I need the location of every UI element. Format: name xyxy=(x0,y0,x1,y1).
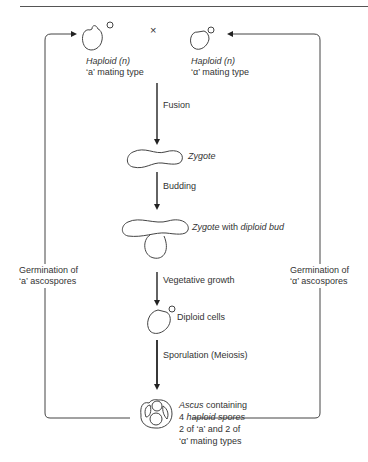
haploid-alpha-label: Haploid (n) xyxy=(191,56,235,67)
life-cycle-diagram xyxy=(0,0,368,462)
haploid-a-mating-type: ‘a’ mating type xyxy=(86,67,144,78)
haploid-alpha-mating-type: ‘α’ mating type xyxy=(191,67,249,78)
sporulation-label: Sporulation (Meiosis) xyxy=(163,350,248,361)
ascus-line3: 2 of ‘a’ and 2 of xyxy=(179,423,247,435)
haploid-alpha-cell-icon xyxy=(191,27,214,49)
zygote-with-bud-italic: Zygote xyxy=(192,222,220,232)
cross-symbol: × xyxy=(150,25,156,36)
right-germination-label: Germination of ‘α’ ascospores xyxy=(290,264,349,288)
left-germination-label: Germination of ‘a’ ascospores xyxy=(19,264,78,288)
zygote-with-bud-label: Zygote with diploid bud xyxy=(192,222,284,233)
ascus-haploid-spores: haploid spores xyxy=(187,412,246,422)
budding-label: Budding xyxy=(163,181,196,192)
zygote-with-bud-icon xyxy=(122,220,188,258)
left-germination-loop xyxy=(45,34,130,418)
ascus-icon xyxy=(141,400,172,428)
left-germination-line2: ‘a’ ascospores xyxy=(19,276,78,287)
ascus-spore-count: 4 xyxy=(179,412,187,422)
left-germination-line1: Germination of xyxy=(19,265,78,276)
diploid-cells-label: Diploid cells xyxy=(177,312,225,323)
right-germination-line2: ‘α’ ascospores xyxy=(290,276,349,287)
ascus-line4: ‘α’ mating types xyxy=(179,435,247,447)
diploid-cell-icon xyxy=(148,306,175,333)
ascus-description: Ascus containing 4 haploid spores 2 of ‘… xyxy=(179,399,247,447)
haploid-a-cell-icon xyxy=(83,22,113,50)
zygote-with-bud-mid: with xyxy=(220,222,241,232)
ascus-word: Ascus xyxy=(179,400,204,410)
ascus-line1-rest: containing xyxy=(204,400,248,410)
vegetative-growth-label: Vegetative growth xyxy=(163,275,235,286)
fusion-label: Fusion xyxy=(163,100,190,111)
right-germination-line1: Germination of xyxy=(290,265,349,276)
zygote-label: Zygote xyxy=(188,151,216,162)
zygote-icon xyxy=(127,150,182,168)
zygote-with-bud-italic2: diploid bud xyxy=(241,222,285,232)
haploid-a-label: Haploid (n) xyxy=(86,56,130,67)
